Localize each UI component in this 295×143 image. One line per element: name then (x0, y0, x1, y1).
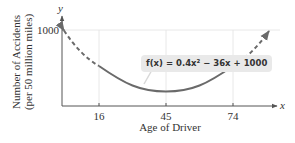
y-tick-label-1000: 1000 (33, 24, 59, 36)
x-tick-label-16: 16 (84, 110, 114, 122)
y-axis-name: y (58, 2, 63, 14)
curve-dashed-left (64, 31, 99, 67)
x-axis-title: Age of Driver (120, 121, 220, 133)
y-axis-title-line1: Number of Accidents (10, 14, 22, 110)
label-pointer (144, 70, 152, 84)
x-tick-label-74: 74 (218, 110, 248, 122)
x-axis-name: x (280, 99, 285, 111)
function-label: f(x) = 0.4x² − 36x + 1000 (141, 55, 272, 72)
